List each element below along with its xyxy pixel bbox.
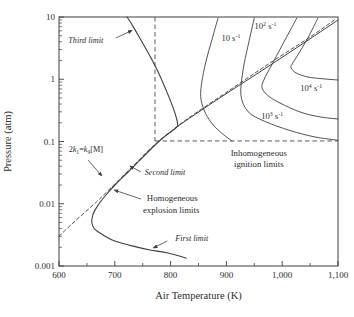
- homogeneous-label-line1: Homogeneous: [147, 193, 198, 203]
- y-tick-label: 1: [51, 74, 56, 84]
- x-tick-label: 600: [52, 270, 66, 280]
- chart-canvas: 6007008009001,0001,1001010.10.010.001Air…: [0, 0, 354, 317]
- y-tick-label: 0.01: [39, 199, 55, 209]
- y-tick-label: 0.1: [44, 137, 55, 147]
- y-tick-label: 0.001: [35, 261, 55, 271]
- x-tick-label: 700: [108, 270, 122, 280]
- explosion-limits-figure: 6007008009001,0001,1001010.10.010.001Air…: [0, 0, 354, 317]
- inhomogeneous-label-line1: Inhomogeneous: [231, 148, 288, 158]
- x-tick-label: 1,100: [328, 270, 349, 280]
- homogeneous-label-line2: explosion limits: [143, 205, 200, 215]
- x-tick-label: 900: [220, 270, 234, 280]
- crossover-equation-label: 2k1=k9[M]: [69, 145, 104, 155]
- first-limit-label: First limit: [174, 234, 209, 243]
- x-axis-title: Air Temperature (K): [155, 290, 242, 302]
- inhomogeneous-label-line2: ignition limits: [234, 159, 284, 169]
- x-tick-label: 1,000: [272, 270, 293, 280]
- third-limit-label: Third limit: [68, 36, 104, 45]
- y-axis-title: Pressure (atm): [2, 111, 14, 172]
- y-tick-label: 10: [46, 12, 56, 22]
- x-tick-label: 800: [164, 270, 178, 280]
- second-limit-label: Second limit: [145, 168, 186, 177]
